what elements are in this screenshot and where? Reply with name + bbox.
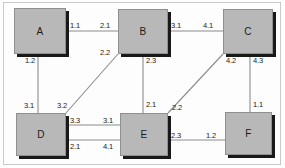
port-label-f-from-c: 1.1 [253,101,263,109]
node-d[interactable]: D [16,113,66,156]
port-label-d-to-b: 3.2 [57,102,67,110]
port-label-d-from-a: 3.1 [24,102,34,110]
node-a[interactable]: A [14,8,66,54]
node-b-label: B [140,26,147,37]
node-e[interactable]: E [120,113,168,156]
port-label-d-to-e-lower: 2.1 [70,143,80,151]
port-label-d-to-e-upper: 3.3 [70,117,80,125]
port-label-b-to-c: 3.1 [171,22,181,30]
node-b[interactable]: B [118,9,168,54]
diagram-canvas: A B C D E F 1.1 2.1 3.1 4.1 1.2 3.1 2.3 … [0,0,285,168]
port-label-e-to-c: 2.2 [172,104,182,112]
port-label-e-to-f: 2.3 [171,132,181,140]
node-a-label: A [37,26,44,37]
port-label-e-from-d-upper: 3.1 [103,117,113,125]
node-c[interactable]: C [223,9,273,54]
node-c-label: C [244,26,251,37]
port-label-e-from-d-lower: 4.1 [103,143,113,151]
node-d-label: D [37,129,44,140]
port-label-b-from-a: 2.1 [100,22,110,30]
port-label-b-to-e: 2.3 [146,57,156,65]
port-label-a-to-d: 1.2 [25,57,35,65]
port-label-b-from-d: 2.2 [100,49,110,57]
edge-d-b [66,54,118,113]
port-label-c-from-b: 4.1 [203,22,213,30]
port-label-c-to-f: 4.3 [253,57,263,65]
port-label-c-from-e: 4.2 [226,57,236,65]
port-label-e-from-b: 2.1 [146,101,156,109]
port-label-f-from-e: 1.2 [206,132,216,140]
node-f[interactable]: F [225,112,272,155]
node-e-label: E [141,129,148,140]
node-f-label: F [245,128,251,139]
port-label-a-to-b: 1.1 [70,22,80,30]
